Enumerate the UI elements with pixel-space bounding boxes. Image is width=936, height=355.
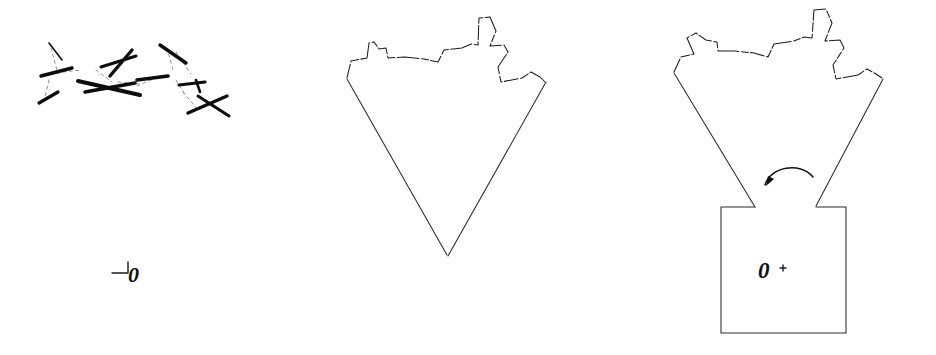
panel-a-canvas [0,0,312,355]
wedge-left-leg [347,79,447,255]
scattered-segments-panel: 0 [0,0,312,355]
wedge-panel: 0 [312,0,624,355]
origin-label-a: 0 [128,262,139,288]
panel-b-canvas [312,0,624,355]
origin-corner-tick [112,262,128,273]
origin-cross-mark [780,265,786,271]
rotation-arrow [765,168,813,186]
figure-root: 0 0 [0,0,936,355]
bold-segments [39,43,229,116]
rotated-wedge-left-leg [674,73,755,207]
panel-c-canvas [624,0,936,355]
rotated-wedge-right-leg [816,79,883,206]
rotated-wedge-panel: θ O [624,0,936,355]
wedge-jagged-top [347,17,545,82]
rotated-wedge-jagged-top [674,9,882,79]
wedge-right-leg [448,82,546,256]
